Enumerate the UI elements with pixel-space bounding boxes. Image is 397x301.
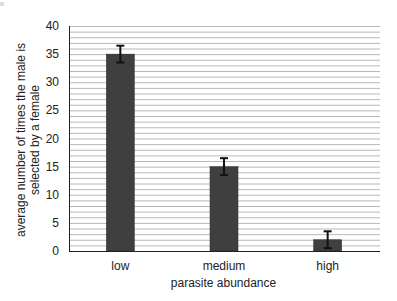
y-tick-label: 40 [46,19,60,33]
x-tick-label-low: low [111,259,129,273]
y-tick-labels: 0510152025303540 [46,19,60,258]
bar-low [106,54,134,251]
bar-medium [210,167,238,251]
y-tick-label: 25 [46,103,60,117]
x-tick-label-medium: medium [203,259,246,273]
y-tick-label: 0 [52,244,59,258]
y-tick-label: 10 [46,188,60,202]
x-axis-title: parasite abundance [171,276,277,290]
y-tick-label: 5 [52,216,59,230]
y-axis-title-line: selected by a female [28,85,42,195]
y-axis-title-line: average number of times the male is [14,43,28,237]
y-axis-title: average number of times the male isselec… [14,43,42,237]
x-tick-labels: lowmediumhigh [111,259,339,273]
bars [106,54,341,251]
y-tick-label: 30 [46,75,60,89]
y-tick-label: 20 [46,132,60,146]
x-tick-label-high: high [316,259,339,273]
y-tick-label: 15 [46,160,60,174]
bar-chart: 0510152025303540 lowmediumhigh parasite … [0,0,397,301]
y-tick-label: 35 [46,47,60,61]
